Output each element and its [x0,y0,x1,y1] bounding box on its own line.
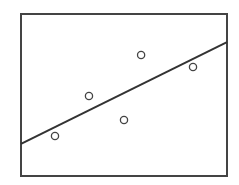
data-point-3 [120,116,127,123]
data-point-5 [189,63,196,70]
data-point-1 [51,132,58,139]
data-point-4 [137,51,144,58]
plot-frame [21,14,227,176]
scatter-chart [0,0,239,185]
data-point-2 [85,92,92,99]
